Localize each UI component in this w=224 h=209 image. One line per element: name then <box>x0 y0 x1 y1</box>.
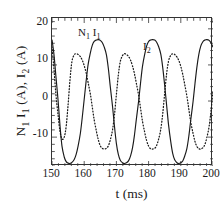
figure-chart: N1 I1 (A), I2 (A) 20 10 0 -10 150 160 17… <box>0 0 224 209</box>
y-tick-label-0: 0 <box>22 91 48 103</box>
x-tick-label-190: 190 <box>164 168 194 180</box>
series-annotation-i2: I2 <box>143 40 151 55</box>
x-tick-label-150: 150 <box>36 168 66 180</box>
plot-svg <box>52 18 213 166</box>
x-axis-title: t (ms) <box>51 186 212 202</box>
y-tick-label-20: 20 <box>22 16 48 28</box>
y-tick-label-10: 10 <box>22 53 48 65</box>
x-tick-label-200: 200 <box>196 168 224 180</box>
x-tick-label-160: 160 <box>68 168 98 180</box>
series-annotation-i2-text: I2 <box>143 40 151 52</box>
series-annotation-n1i1: N1 I1 <box>78 26 100 41</box>
series-annotation-n1i1-text: N1 I1 <box>78 26 100 38</box>
x-tick-label-180: 180 <box>132 168 162 180</box>
series-line-n1i1 <box>52 40 213 164</box>
axis-ticks <box>52 18 213 166</box>
x-tick-label-170: 170 <box>100 168 130 180</box>
y-tick-label-minus10: -10 <box>22 128 48 140</box>
plot-area <box>51 17 212 165</box>
